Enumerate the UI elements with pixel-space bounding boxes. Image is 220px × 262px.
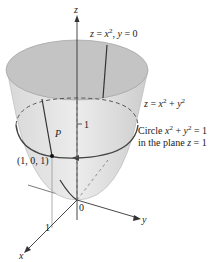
point-p-label: P <box>55 128 61 139</box>
z-tick-label: 1 <box>84 119 89 130</box>
circle-label-line1: Circle x2 + y2 = 1 <box>138 125 207 136</box>
surface-label: z = x2 + y2 <box>144 98 185 109</box>
point-p <box>50 154 54 158</box>
origin-label: 0 <box>79 202 84 213</box>
x-tick-label: 1 <box>45 222 50 233</box>
circle-label-line2: in the plane z = 1 <box>138 137 207 148</box>
x-axis-label: x <box>19 250 23 261</box>
parabola-trace-label: z = x2, y = 0 <box>90 28 138 39</box>
y-axis-label: y <box>142 214 146 225</box>
z-axis-label: z <box>74 4 78 15</box>
y-axis <box>77 200 138 218</box>
point-coords-label: (1, 0, 1) <box>17 155 49 166</box>
